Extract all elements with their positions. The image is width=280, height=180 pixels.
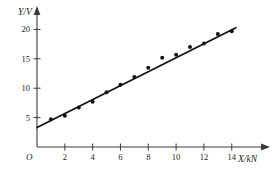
x-axis-arrow-icon: [261, 144, 270, 151]
y-tick-label: 10: [22, 83, 31, 93]
scatter-chart: 5101520 2468101214 Y/V X/kN O: [0, 0, 280, 180]
data-point: [77, 106, 81, 110]
fit-line-segment: [37, 28, 236, 128]
y-tick-label: 15: [22, 54, 31, 64]
data-point: [160, 56, 164, 60]
x-tick-label: 2: [63, 152, 67, 162]
x-axis-label: X/kN: [237, 154, 258, 164]
x-tick-label: 14: [227, 152, 236, 162]
data-point: [49, 117, 53, 121]
data-point: [174, 53, 178, 57]
data-point: [105, 90, 109, 94]
best-fit-line: [37, 28, 236, 128]
y-tick-label: 5: [26, 113, 30, 123]
x-tick-label: 10: [172, 152, 181, 162]
data-point: [202, 42, 206, 46]
data-point: [188, 45, 192, 49]
data-point: [132, 75, 136, 79]
data-point: [63, 114, 67, 118]
data-point: [216, 32, 220, 36]
data-point: [146, 66, 150, 70]
data-point: [91, 100, 95, 104]
data-point: [118, 83, 122, 87]
y-axis-label: Y/V: [18, 7, 33, 17]
chart-plot-area: 5101520 2468101214 Y/V X/kN O: [0, 0, 280, 180]
y-tick-label: 20: [22, 24, 31, 34]
x-tick-label: 4: [91, 152, 96, 162]
origin-label: O: [26, 152, 33, 162]
data-point: [230, 29, 234, 33]
x-axis-ticks: 2468101214: [63, 144, 237, 163]
x-tick-label: 12: [200, 152, 209, 162]
y-axis-arrow-icon: [34, 6, 41, 15]
y-axis-ticks: 5101520: [22, 24, 41, 122]
x-tick-label: 6: [118, 152, 122, 162]
x-tick-label: 8: [146, 152, 150, 162]
